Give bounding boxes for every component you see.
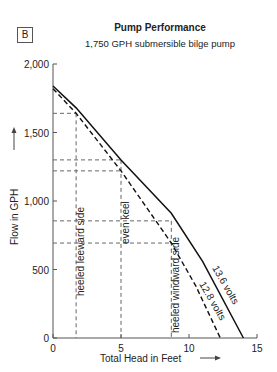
y-tick-label: 0 [43,333,49,344]
y-tick-label: 1,500 [24,128,49,139]
x-axis-label: Total Head in Feet [100,353,181,364]
y-tick-label: 1,000 [24,196,49,207]
x-tick-label: 15 [251,343,263,354]
chart-plot: 05001,0001,5002,000051015Total Head in F… [0,0,277,372]
annotation-label: heeled windward side [170,236,181,333]
y-axis-label: Flow in GPH [9,189,20,245]
x-tick-label: 0 [50,343,56,354]
reference-lines [53,113,171,338]
y-tick-label: 2,000 [24,59,49,70]
x-tick-label: 10 [183,343,195,354]
y-tick-label: 500 [32,265,49,276]
annotation-label: heeled leeward side [75,207,86,296]
annotation-label: even keel [120,201,131,244]
